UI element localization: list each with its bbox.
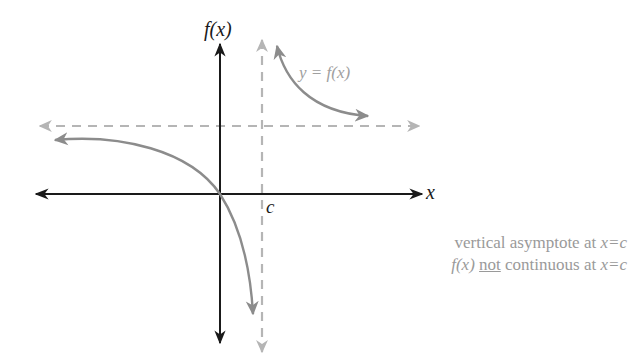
caption-line-1-text: vertical asymptote at — [455, 233, 601, 252]
curve-left-branch — [55, 139, 253, 314]
caption-line-1-var: x=c — [600, 233, 627, 252]
caption-line-2-not: not — [479, 255, 501, 274]
curve-label: y = f(x) — [297, 63, 350, 82]
y-axis-label: f(x) — [204, 18, 232, 41]
caption-line-2: f(x) not continuous at x=c — [451, 254, 627, 276]
caption-line-1: vertical asymptote at x=c — [455, 232, 627, 254]
caption-line-2-fx: f(x) — [451, 255, 475, 274]
caption-line-2-text: continuous at — [501, 255, 601, 274]
x-axis-label: x — [425, 181, 435, 203]
c-label: c — [266, 196, 275, 217]
caption-line-2-var: x=c — [600, 255, 627, 274]
graph-canvas: f(x) x c y = f(x) — [0, 0, 636, 364]
